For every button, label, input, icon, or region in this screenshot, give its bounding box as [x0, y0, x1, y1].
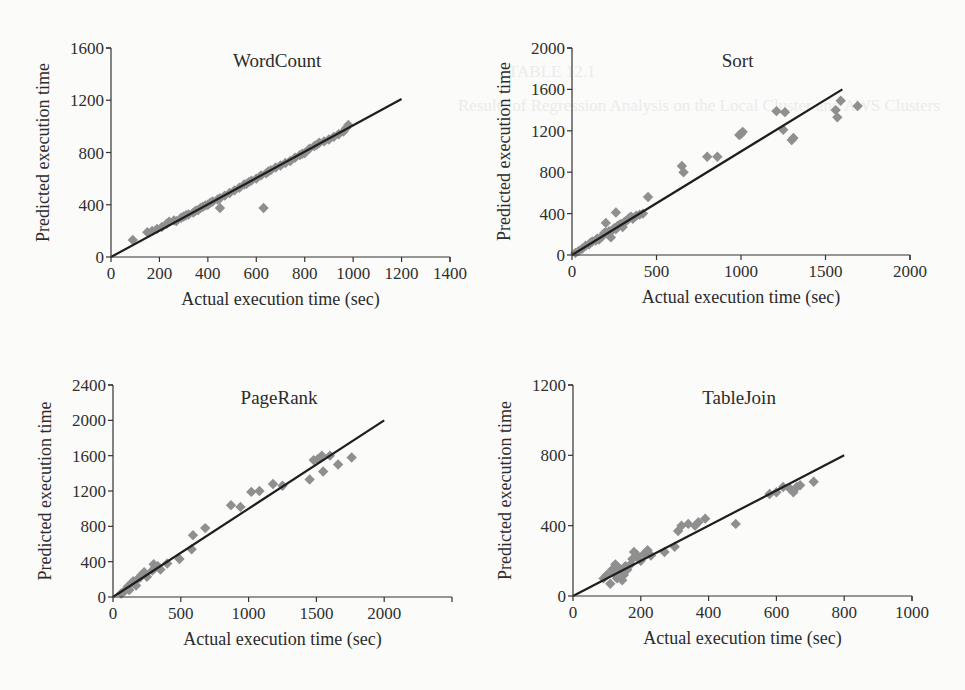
y-tick-label: 800: [79, 144, 105, 163]
x-tick-label: 1000: [336, 264, 370, 283]
x-axis-title: Actual execution time (sec): [183, 629, 381, 650]
data-point-diamond: [712, 151, 722, 161]
regression-line: [573, 455, 844, 596]
x-tick-label: 2000: [893, 262, 927, 281]
regression-line: [113, 420, 384, 597]
data-point-diamond: [215, 203, 225, 213]
x-tick-label: 0: [569, 603, 578, 622]
data-point-diamond: [200, 523, 210, 533]
data-point-diamond: [771, 106, 781, 116]
y-tick-label: 1600: [72, 447, 106, 466]
data-point-diamond: [346, 452, 356, 462]
data-point-diamond: [333, 459, 343, 469]
pagerank-scatter-panel: 050010001500200004008001200160020002400P…: [35, 376, 452, 650]
data-points: [598, 477, 819, 589]
y-axis-title: Predicted execution time: [35, 402, 55, 581]
figure-panel-grid: 0200400600800100012001400040080012001600…: [0, 0, 965, 690]
y-tick-label: 2000: [72, 411, 106, 430]
x-tick-label: 1200: [385, 264, 419, 283]
y-tick-label: 800: [540, 163, 566, 182]
y-tick-label: 1200: [70, 91, 104, 110]
y-tick-label: 2000: [531, 39, 565, 58]
data-point-diamond: [188, 530, 198, 540]
x-tick-label: 600: [764, 603, 790, 622]
chart-title: Sort: [722, 50, 754, 71]
x-tick-label: 1000: [724, 262, 758, 281]
data-point-diamond: [702, 151, 712, 161]
y-tick-label: 0: [98, 588, 107, 607]
y-tick-label: 0: [96, 248, 105, 267]
data-point-diamond: [254, 486, 264, 496]
y-axis-title: Predicted execution time: [495, 401, 515, 580]
data-point-diamond: [832, 112, 842, 122]
x-tick-label: 200: [628, 603, 654, 622]
x-axis-title: Actual execution time (sec): [643, 628, 841, 649]
wordcount-scatter-panel: 0200400600800100012001400040080012001600…: [33, 39, 467, 310]
y-tick-label: 800: [81, 517, 107, 536]
y-tick-label: 1600: [531, 80, 565, 99]
y-tick-label: 400: [541, 517, 567, 536]
data-point-diamond: [611, 207, 621, 217]
data-point-diamond: [226, 500, 236, 510]
x-tick-label: 0: [109, 604, 118, 623]
data-point-diamond: [836, 96, 846, 106]
data-point-diamond: [318, 466, 328, 476]
x-tick-label: 0: [107, 264, 116, 283]
x-tick-label: 400: [195, 264, 221, 283]
x-tick-label: 1500: [299, 604, 333, 623]
x-tick-label: 200: [147, 264, 173, 283]
sort-scatter-panel: 05001000150020000400800120016002000SortA…: [494, 39, 927, 308]
chart-title: TableJoin: [702, 387, 776, 408]
x-tick-label: 800: [831, 603, 857, 622]
y-tick-label: 1200: [532, 376, 566, 395]
y-tick-label: 400: [81, 553, 107, 572]
tablejoin-scatter-panel: 0200400600800100004008001200TableJoinAct…: [495, 376, 929, 649]
data-points: [116, 450, 357, 598]
data-point-diamond: [246, 487, 256, 497]
data-point-diamond: [808, 477, 818, 487]
data-point-diamond: [268, 479, 278, 489]
y-tick-label: 0: [558, 587, 567, 606]
x-tick-label: 1400: [433, 264, 467, 283]
x-tick-label: 400: [696, 603, 722, 622]
x-tick-label: 2000: [367, 604, 401, 623]
data-point-diamond: [731, 519, 741, 529]
data-point-diamond: [258, 203, 268, 213]
y-axis-title: Predicted execution time: [494, 62, 514, 241]
data-point-diamond: [852, 101, 862, 111]
data-point-diamond: [304, 474, 314, 484]
x-axis-title: Actual execution time (sec): [181, 289, 379, 310]
y-tick-label: 1600: [70, 39, 104, 58]
y-tick-label: 1200: [72, 482, 106, 501]
x-tick-label: 1000: [232, 604, 266, 623]
y-tick-label: 800: [541, 446, 567, 465]
x-tick-label: 800: [292, 264, 318, 283]
x-tick-label: 500: [168, 604, 194, 623]
x-axis-title: Actual execution time (sec): [642, 287, 840, 308]
x-tick-label: 1500: [809, 262, 843, 281]
data-point-diamond: [643, 192, 653, 202]
x-tick-label: 0: [568, 262, 577, 281]
data-point-diamond: [830, 105, 840, 115]
x-tick-label: 500: [644, 262, 670, 281]
x-tick-label: 600: [244, 264, 270, 283]
y-tick-label: 0: [557, 246, 566, 265]
chart-title: WordCount: [233, 50, 322, 71]
y-tick-label: 2400: [72, 376, 106, 395]
y-tick-label: 400: [79, 196, 105, 215]
x-tick-label: 1000: [895, 603, 929, 622]
regression-line: [572, 89, 842, 255]
chart-title: PageRank: [241, 387, 319, 408]
y-tick-label: 400: [540, 205, 566, 224]
y-axis-title: Predicted execution time: [33, 63, 53, 242]
regression-line: [111, 99, 402, 257]
data-points: [570, 96, 863, 259]
y-tick-label: 1200: [531, 122, 565, 141]
data-points: [128, 120, 354, 245]
data-point-diamond: [780, 107, 790, 117]
